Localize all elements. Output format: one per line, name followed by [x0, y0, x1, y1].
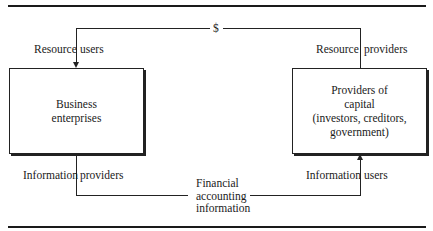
right-top-label-right: providers [364, 42, 407, 56]
right-node-line-3: (investors, creditors, [312, 111, 406, 125]
left-top-label-left: Resource [34, 42, 77, 56]
right-node-line-2: capital [312, 97, 406, 111]
flow-label-line-2: accounting [196, 190, 250, 203]
left-node-line-2: enterprises [52, 111, 102, 125]
left-node-line-1: Business [52, 97, 102, 111]
money-symbol: $ [213, 21, 219, 35]
left-bottom-label-right: providers [80, 168, 123, 182]
right-top-label-left: Resource [316, 42, 359, 56]
financial-accounting-information-label: Financial accounting information [196, 177, 250, 215]
providers-of-capital-node: Providers of capital (investors, credito… [292, 68, 427, 154]
arrow-up-icon [357, 154, 363, 160]
right-bottom-label-right: users [364, 168, 388, 182]
money-flow-line-right [223, 28, 360, 29]
right-node-line-1: Providers of [312, 83, 406, 97]
top-rule [8, 5, 426, 7]
business-enterprises-node: Business enterprises [9, 68, 144, 154]
money-flow-line-left [76, 28, 210, 29]
flow-label-line-1: Financial [196, 177, 250, 190]
bottom-rule [8, 226, 426, 228]
flow-label-line-3: information [196, 202, 250, 215]
info-flow-line-left [76, 195, 188, 196]
right-node-line-4: government) [312, 125, 406, 139]
info-flow-line-right [250, 195, 361, 196]
left-bottom-label-left: Information [23, 168, 78, 182]
money-flow-vertical-right [360, 28, 361, 68]
right-bottom-label-left: Information [306, 168, 361, 182]
left-top-label-right: users [80, 42, 104, 56]
